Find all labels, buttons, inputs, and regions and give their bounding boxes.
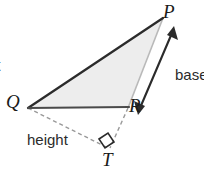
height-label: height	[27, 132, 68, 147]
vertex-label-r: R	[129, 96, 141, 115]
base-label: base	[175, 67, 204, 82]
vertex-label-t: T	[102, 150, 113, 169]
vertex-label-q: Q	[6, 92, 20, 111]
right-angle-marker-icon	[99, 133, 114, 148]
geometry-diagram: P Q R T base height t	[0, 0, 204, 170]
edge-qr	[28, 107, 129, 108]
vertex-label-p: P	[163, 2, 175, 21]
base-arrowhead-up-icon	[167, 26, 178, 40]
